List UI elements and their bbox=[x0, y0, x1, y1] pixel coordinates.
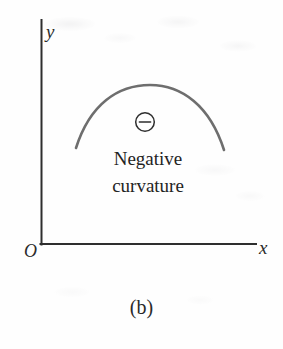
figure-caption: (b) bbox=[0, 296, 283, 319]
annotation-line-2: curvature bbox=[66, 173, 230, 200]
figure-container: y x O Negative curvature (b) bbox=[0, 0, 283, 349]
x-axis-label: x bbox=[259, 238, 267, 257]
y-axis-label: y bbox=[46, 22, 54, 41]
annotation-line-1: Negative bbox=[66, 146, 230, 173]
origin-label: O bbox=[24, 242, 37, 260]
curvature-annotation: Negative curvature bbox=[66, 146, 230, 200]
minus-in-circle-icon bbox=[134, 111, 156, 133]
